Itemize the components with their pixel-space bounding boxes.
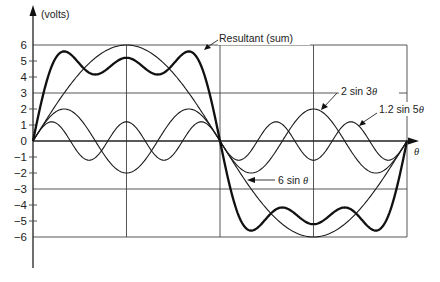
- resultant-label: Resultant (sum): [219, 32, 293, 44]
- chart-canvas: (volts) θ 6543210−1−2−3−4−5−6 Resultant …: [0, 0, 440, 282]
- y-tick-label: 6: [21, 39, 27, 51]
- x-axis-arrow-icon: [408, 138, 419, 145]
- y-tick-label: −6: [14, 231, 27, 243]
- y-tick-label: −1: [14, 151, 27, 163]
- x-axis-label: θ: [414, 146, 419, 157]
- two-sin3-leader: [324, 93, 337, 107]
- y-tick-label: 0: [21, 135, 27, 147]
- six-sin-label: 6 sin θ: [278, 174, 308, 186]
- onetwo-sin5-leader: [362, 113, 377, 123]
- y-tick-label: −2: [14, 167, 27, 179]
- two-sin3-label: 2 sin 3θ: [341, 85, 377, 97]
- y-tick-label: 1: [21, 119, 27, 131]
- y-tick-label: −4: [14, 199, 28, 211]
- y-tick-label: 3: [21, 87, 27, 99]
- y-tick-label: 2: [21, 103, 27, 115]
- y-axis-arrow-icon: [30, 5, 37, 16]
- y-tick-label: −5: [14, 215, 27, 227]
- onetwo-sin5-label: 1.2 sin 5θ: [379, 103, 424, 115]
- y-tick-label: −3: [14, 183, 27, 195]
- y-tick-label: 4: [21, 71, 28, 83]
- y-tick-label: 5: [21, 55, 27, 67]
- y-axis-label: (volts): [41, 8, 70, 20]
- six-sin-arrow-icon: [247, 177, 255, 183]
